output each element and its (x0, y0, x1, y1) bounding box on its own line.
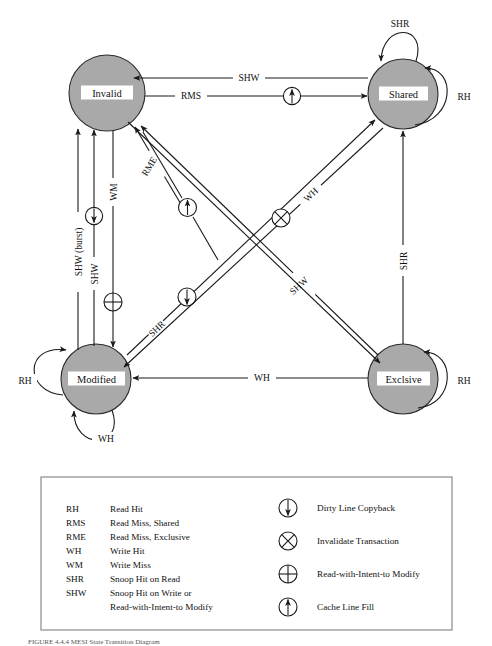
legend-symbol-label-0: Dirty Line Copyback (317, 503, 395, 513)
shw-left-label: SHW (90, 263, 100, 284)
rh-modified-label: RH (18, 376, 31, 386)
modified-label: Modified (77, 374, 117, 385)
legend-box: RH Read Hit RMS Read Miss, Shared RME Re… (41, 477, 452, 630)
invalid-label: Invalid (92, 88, 122, 99)
state-node-shared[interactable]: Shared (368, 59, 438, 129)
legend-meaning-3: Write Hit (110, 546, 145, 556)
dirty-line-copyback-icon (85, 207, 102, 224)
legend-abbr-1: RMS (66, 518, 85, 528)
legend-invalidate-transaction-icon (279, 532, 297, 550)
legend-meaning-1: Read Miss, Shared (110, 518, 180, 528)
shared-label: Shared (389, 89, 419, 100)
legend-abbr-0: RH (66, 504, 79, 514)
shr-right-label: SHR (399, 251, 409, 270)
diagram-canvas: Invalid Shared Modified Exclsive SHW RMS… (0, 0, 492, 646)
state-node-invalid[interactable]: Invalid (69, 55, 145, 131)
legend-meaning-7: Read-with-Intent-to Modify (110, 602, 213, 612)
legend-meaning-5: Snoop Hit on Read (110, 574, 181, 584)
legend-abbr-2: RME (66, 532, 86, 542)
shw-burst-label: SHW (burst) (74, 228, 85, 277)
wh-bottom-label: WH (254, 373, 270, 383)
rh-shared-label: RH (457, 92, 470, 102)
state-node-modified[interactable]: Modified (61, 344, 131, 414)
rms-top-label: RMS (181, 91, 201, 101)
legend-read-with-intent-to-modify-icon (279, 565, 297, 583)
legend-meaning-2: Read Miss, Exclusive (110, 532, 190, 542)
legend-abbr-4: WM (66, 560, 83, 570)
read-with-intent-to-modify-icon (104, 293, 122, 311)
cache-line-fill-icon (283, 87, 300, 104)
wh-modified-label: WH (98, 434, 114, 444)
legend-meaning-4: Write Miss (110, 560, 151, 570)
exclusive-label: Exclsive (385, 374, 421, 385)
shw-top-label: SHW (238, 73, 259, 83)
legend-dirty-line-copyback-icon (279, 499, 297, 517)
legend-meaning-0: Read Hit (110, 504, 143, 514)
state-node-exclusive[interactable]: Exclsive (368, 344, 438, 414)
legend-cache-line-fill-icon (279, 598, 297, 616)
figure-state-transition-diagram: Invalid Shared Modified Exclsive SHW RMS… (0, 0, 492, 646)
legend-meaning-6: Snoop Hit on Write or (110, 588, 192, 598)
invalidate-transaction-icon (272, 209, 290, 227)
figure-caption: FIGURE 4.4.4 MESI State Transition Diagr… (28, 638, 160, 646)
legend-border (41, 477, 452, 630)
cache-line-fill-icon (179, 199, 197, 217)
legend-symbol-label-2: Read-with-Intent-to Modify (317, 569, 420, 579)
legend-abbr-6: SHW (66, 588, 87, 598)
wm-left-label: WM (109, 183, 119, 201)
rh-exclusive-label: RH (457, 376, 470, 386)
legend-abbr-5: SHR (66, 574, 85, 584)
legend-abbr-3: WH (66, 546, 82, 556)
shr-loop-label: SHR (391, 19, 410, 29)
legend-symbol-label-1: Invalidate Transaction (317, 536, 399, 546)
legend-symbol-label-3: Cache Line Fill (317, 602, 375, 612)
